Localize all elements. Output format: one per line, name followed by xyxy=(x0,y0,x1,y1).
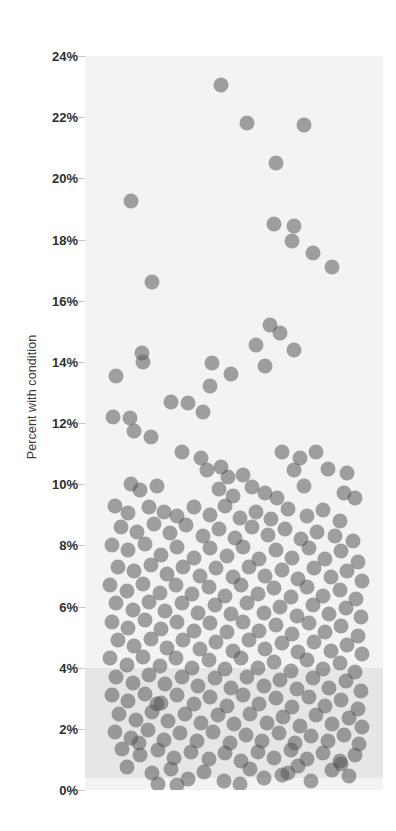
data-point xyxy=(285,550,300,565)
data-point xyxy=(316,746,331,761)
y-tick-mark xyxy=(78,56,85,57)
data-point xyxy=(300,653,315,668)
y-tick-label: 0% xyxy=(18,783,78,798)
data-point xyxy=(170,688,185,703)
data-point xyxy=(355,646,370,661)
data-point xyxy=(204,356,219,371)
data-point xyxy=(347,747,362,762)
data-point xyxy=(146,516,161,531)
data-point xyxy=(110,633,125,648)
data-point xyxy=(232,776,247,790)
data-point xyxy=(218,746,233,761)
y-tick-mark xyxy=(78,178,85,179)
data-point xyxy=(119,760,134,775)
data-point xyxy=(164,761,179,776)
data-point xyxy=(112,706,127,721)
data-point xyxy=(307,561,322,576)
data-point xyxy=(273,325,288,340)
data-point xyxy=(168,578,183,593)
data-point xyxy=(274,636,289,651)
data-point xyxy=(127,423,142,438)
data-point xyxy=(137,536,152,551)
y-tick-label: 6% xyxy=(18,599,78,614)
data-point xyxy=(104,538,119,553)
data-point xyxy=(249,338,264,353)
data-point xyxy=(355,573,370,588)
data-point xyxy=(320,461,335,476)
data-point xyxy=(240,116,255,131)
data-point xyxy=(338,601,353,616)
data-point xyxy=(267,750,282,765)
data-point xyxy=(109,669,124,684)
data-point xyxy=(305,671,320,686)
data-point xyxy=(119,657,134,672)
data-point xyxy=(285,234,300,249)
data-point xyxy=(334,544,349,559)
data-point xyxy=(334,619,349,634)
data-point xyxy=(209,634,224,649)
data-point xyxy=(256,679,271,694)
data-point xyxy=(273,599,288,614)
data-point xyxy=(224,367,239,382)
data-point xyxy=(297,117,312,132)
y-tick-mark xyxy=(78,484,85,485)
data-point xyxy=(219,549,234,564)
data-point xyxy=(305,597,320,612)
data-point xyxy=(203,379,218,394)
data-point xyxy=(235,688,250,703)
y-axis-title: Percent with condition xyxy=(25,247,39,547)
data-point xyxy=(249,504,264,519)
data-point xyxy=(340,564,355,579)
data-point xyxy=(238,727,253,742)
y-tick-mark xyxy=(78,117,85,118)
data-point xyxy=(197,764,212,779)
data-point xyxy=(113,519,128,534)
data-point xyxy=(322,607,337,622)
data-point xyxy=(170,614,185,629)
data-point xyxy=(235,539,250,554)
y-tick-mark xyxy=(78,301,85,302)
y-tick-label: 24% xyxy=(18,49,78,64)
data-point xyxy=(142,594,157,609)
data-point xyxy=(209,561,224,576)
data-point xyxy=(304,729,319,744)
data-point xyxy=(170,539,185,554)
data-point xyxy=(267,217,282,232)
data-point xyxy=(177,706,192,721)
y-tick-mark xyxy=(78,545,85,546)
data-point xyxy=(307,634,322,649)
data-point xyxy=(213,78,228,93)
data-point xyxy=(151,743,166,758)
data-point xyxy=(243,706,258,721)
data-point xyxy=(121,620,136,635)
data-point xyxy=(104,614,119,629)
data-point xyxy=(325,260,340,275)
data-point xyxy=(241,559,256,574)
y-tick-mark xyxy=(78,423,85,424)
data-point xyxy=(286,218,301,233)
data-point xyxy=(286,342,301,357)
data-point xyxy=(143,558,158,573)
data-point xyxy=(340,637,355,652)
data-point xyxy=(300,579,315,594)
data-point xyxy=(256,605,271,620)
data-point xyxy=(162,526,177,541)
data-point xyxy=(203,689,218,704)
data-point xyxy=(203,541,218,556)
data-point xyxy=(143,429,158,444)
data-point xyxy=(334,692,349,707)
data-point xyxy=(106,409,121,424)
data-point xyxy=(261,527,276,542)
y-tick-label: 16% xyxy=(18,293,78,308)
data-point xyxy=(322,680,337,695)
data-point xyxy=(174,596,189,611)
data-point xyxy=(341,711,356,726)
data-point xyxy=(334,757,349,772)
data-point xyxy=(271,726,286,741)
data-point xyxy=(142,668,157,683)
data-point xyxy=(234,651,249,666)
data-point xyxy=(109,596,124,611)
data-point xyxy=(310,524,325,539)
data-point xyxy=(207,671,222,686)
y-tick-label: 20% xyxy=(18,171,78,186)
